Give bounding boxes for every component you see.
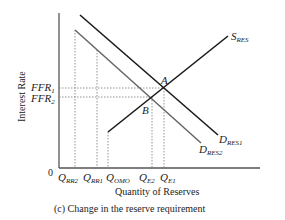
point-a-label: A [160,74,168,86]
qe2-label: QE2 [139,171,155,185]
qrr2-label: QRR2 [58,171,79,185]
reserve-market-diagram: SRES DRES1 DRES2 A B FFR1 FFR2 0 QRR2 QR… [0,0,285,220]
demand2-label: DRES2 [198,143,223,157]
caption: (c) Change in the reserve requirement [54,203,206,215]
qe1-label: QE1 [160,171,176,185]
demand1-label: DRES1 [218,133,243,147]
demand-curve-2 [75,30,201,143]
qomo-label: QOMO [106,171,130,185]
origin-label: 0 [48,167,53,178]
qrr1-label: QRR1 [83,171,103,185]
y-axis-title: Interest Rate [16,71,27,122]
supply-label: SRES [231,30,249,44]
demand-curve-1 [80,15,218,135]
x-axis-title: Quantity of Reserves [115,186,200,197]
point-b-label: B [142,104,149,116]
supply-curve [108,36,228,132]
